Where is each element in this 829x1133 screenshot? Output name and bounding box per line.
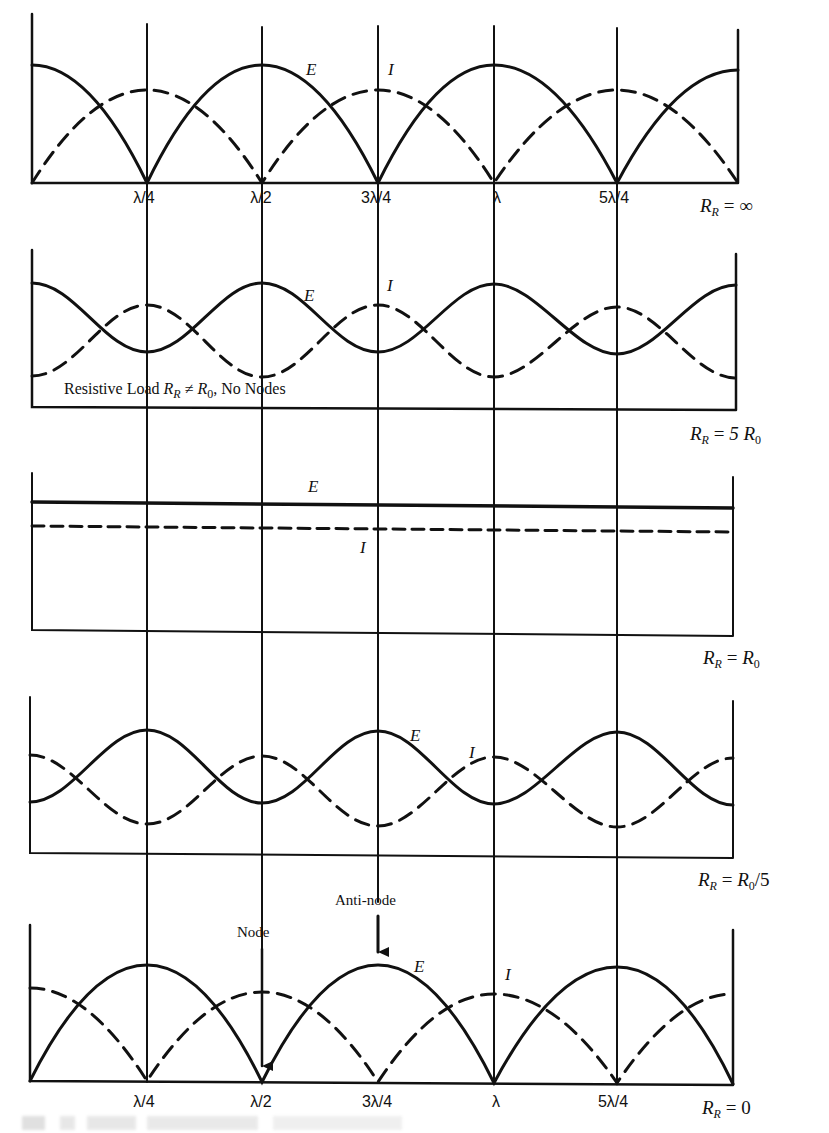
cropped-caption bbox=[22, 1116, 402, 1130]
anti-node-annotation: Anti-node bbox=[335, 893, 396, 908]
panel-matched bbox=[32, 473, 733, 636]
load-label-5R0: RR = 5 R0 bbox=[690, 424, 761, 446]
tick-3lambda-4-top: 3λ/4 bbox=[361, 190, 391, 206]
label-I-panel5: I bbox=[505, 966, 511, 983]
curve-E bbox=[32, 502, 733, 508]
panel-open-circuit bbox=[32, 14, 738, 183]
curve-E bbox=[30, 730, 733, 805]
panel-frame bbox=[30, 697, 733, 858]
tick-5lambda-4-bottom: 5λ/4 bbox=[598, 1094, 628, 1110]
panel-short-circuit bbox=[30, 916, 733, 1085]
label-I-panel1: I bbox=[388, 61, 394, 78]
no-nodes-note: Resistive Load RR ≠ R0, No Nodes bbox=[64, 381, 286, 400]
load-label-R0: RR = R0 bbox=[703, 648, 760, 670]
tick-lambda-4-bottom: λ/4 bbox=[133, 1094, 154, 1110]
label-E-panel1: E bbox=[306, 61, 316, 78]
panel-resistive-R0-over-5 bbox=[30, 697, 733, 858]
curve-I bbox=[30, 988, 733, 1083]
curve-E bbox=[32, 283, 736, 354]
label-E-panel3: E bbox=[308, 478, 318, 495]
tick-lambda-4-top: λ/4 bbox=[133, 190, 154, 206]
label-I-panel3: I bbox=[360, 539, 366, 556]
load-label-zero: RR = 0 bbox=[702, 1098, 751, 1120]
curve-I bbox=[30, 755, 733, 827]
load-label-infinity: RR = ∞ bbox=[700, 196, 753, 218]
curve-I bbox=[32, 305, 736, 378]
label-E-panel2: E bbox=[304, 287, 314, 304]
tick-3lambda-4-bottom: 3λ/4 bbox=[362, 1094, 392, 1110]
tick-lambda-top: λ bbox=[493, 190, 501, 206]
panel-frame bbox=[30, 925, 733, 1085]
panel-frame bbox=[32, 473, 733, 636]
tick-5lambda-4-top: 5λ/4 bbox=[599, 190, 629, 206]
tick-lambda-bottom: λ bbox=[492, 1094, 500, 1110]
load-label-R0-over-5: RR = R0/5 bbox=[698, 870, 770, 892]
label-E-panel4: E bbox=[410, 727, 420, 744]
tick-lambda-2-top: λ/2 bbox=[250, 190, 271, 206]
curve-I bbox=[32, 526, 733, 532]
label-E-panel5: E bbox=[414, 958, 424, 975]
curve-E bbox=[32, 65, 738, 183]
tick-lambda-2-bottom: λ/2 bbox=[250, 1094, 271, 1110]
label-I-panel4: I bbox=[469, 744, 475, 761]
label-I-panel2: I bbox=[387, 277, 393, 294]
node-annotation: Node bbox=[237, 925, 270, 940]
